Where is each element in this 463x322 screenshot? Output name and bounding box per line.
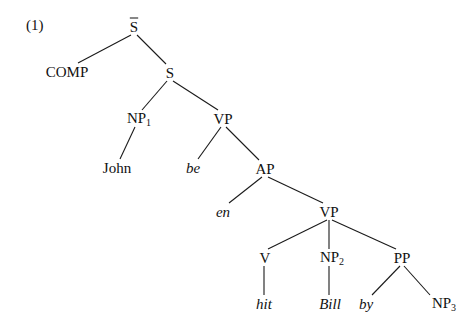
leaf-bill: Bill xyxy=(319,297,341,312)
node-ap: AP xyxy=(255,162,274,177)
node-pp: PP xyxy=(394,251,411,266)
branch-pp-np3 xyxy=(404,266,430,295)
branch-vp1-ap xyxy=(226,127,259,160)
node-vp-upper: VP xyxy=(213,112,232,127)
node-s-bar: S xyxy=(130,20,138,35)
node-np2-label: NP xyxy=(320,249,339,265)
leaf-en: en xyxy=(216,205,230,220)
node-np1-subscript: 1 xyxy=(146,117,151,128)
node-np2-subscript: 2 xyxy=(339,256,344,267)
node-np1: NP1 xyxy=(127,111,151,128)
leaf-by: by xyxy=(359,297,373,312)
branch-pp-by xyxy=(372,266,400,295)
node-np1-label: NP xyxy=(127,110,146,126)
node-np3-subscript: 3 xyxy=(451,302,456,313)
branch-sbar-comp xyxy=(78,35,131,63)
leaf-john: John xyxy=(103,161,131,176)
branch-vp2-v xyxy=(268,220,327,249)
tree-branches xyxy=(0,0,463,322)
branch-sbar-s xyxy=(137,35,166,64)
leaf-hit: hit xyxy=(256,297,272,312)
branch-vp2-pp xyxy=(332,220,396,249)
branch-np1-john xyxy=(120,127,135,159)
branch-s-vp1 xyxy=(173,81,218,110)
branch-ap-vp2 xyxy=(268,177,323,203)
node-comp: COMP xyxy=(46,65,89,80)
node-s: S xyxy=(166,66,174,81)
node-np2: NP2 xyxy=(320,250,344,267)
node-np3: NP3 xyxy=(432,296,456,313)
node-np3-label: NP xyxy=(432,295,451,311)
branch-vp1-be xyxy=(198,127,221,159)
branch-s-np1 xyxy=(142,81,167,110)
node-vp-lower: VP xyxy=(319,205,338,220)
node-v: V xyxy=(260,251,271,266)
branch-ap-en xyxy=(229,177,262,203)
leaf-be: be xyxy=(186,161,200,176)
